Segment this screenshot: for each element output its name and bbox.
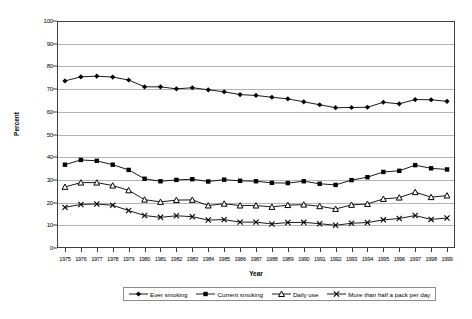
smoking-trends-line-chart: 0102030405060708090100 Percent 197519761… <box>0 0 472 319</box>
x-axis-tick-label: 1978 <box>107 256 118 262</box>
x-axis-tick-mark <box>447 248 448 252</box>
x-axis-tick-label: 1976 <box>75 256 86 262</box>
legend-label: More than half a pack per day <box>348 291 430 298</box>
x-axis-tick-label: 1985 <box>219 256 230 262</box>
gridline <box>58 203 454 204</box>
x-axis-tick-mark <box>272 248 273 252</box>
x-axis-tick-mark <box>129 248 130 252</box>
x-axis-tick-mark <box>383 248 384 252</box>
x-axis-tick-label: 1987 <box>250 256 261 262</box>
x-axis-tick-mark <box>256 248 257 252</box>
x-axis-tick-mark <box>81 248 82 252</box>
x-axis-tick-label: 1979 <box>123 256 134 262</box>
x-axis-tick-mark <box>113 248 114 252</box>
gridline <box>58 180 454 181</box>
x-axis-tick-mark <box>399 248 400 252</box>
chart-legend: Ever smokingCurrent smokingDaily useMore… <box>123 287 436 301</box>
x-axis-tick-mark <box>160 248 161 252</box>
x-axis-tick-label: 1994 <box>362 256 373 262</box>
x-axis-tick-label: 1996 <box>394 256 405 262</box>
x-axis-tick-label: 1989 <box>282 256 293 262</box>
x-axis-tick-label: 1997 <box>410 256 421 262</box>
diamond-marker-icon <box>129 290 148 298</box>
gridline <box>58 44 454 45</box>
x-axis-title: Year <box>249 270 263 277</box>
x-axis-tick-label: 1999 <box>441 256 452 262</box>
x-axis-tick-label: 1977 <box>91 256 102 262</box>
square-marker-icon <box>196 290 215 298</box>
x-axis-tick-mark <box>145 248 146 252</box>
x-axis-tick-mark <box>352 248 353 252</box>
x-axis-tick-mark <box>176 248 177 252</box>
x-axis-tick-mark <box>240 248 241 252</box>
x-axis-tick-mark <box>97 248 98 252</box>
legend-label: Ever smoking <box>150 291 187 298</box>
x-axis-tick-label: 1990 <box>298 256 309 262</box>
gridline <box>58 66 454 67</box>
x-axis-tick-label: 1991 <box>314 256 325 262</box>
y-axis: 0102030405060708090100 <box>0 0 57 249</box>
legend-item-3: More than half a pack per day <box>327 290 430 298</box>
x-axis-tick-mark <box>288 248 289 252</box>
triangle-marker-icon <box>272 290 291 298</box>
x-axis-tick-label: 1975 <box>59 256 70 262</box>
y-axis-title: Percent <box>13 112 20 136</box>
x-axis-tick-label: 1981 <box>155 256 166 262</box>
gridline <box>58 225 454 226</box>
x-axis-tick-mark <box>192 248 193 252</box>
x-axis-tick-mark <box>304 248 305 252</box>
gridline <box>58 157 454 158</box>
x-axis-tick-mark <box>320 248 321 252</box>
x-axis-tick-label: 1998 <box>425 256 436 262</box>
gridline <box>58 89 454 90</box>
x-axis-tick-label: 1993 <box>346 256 357 262</box>
x-axis-tick-label: 1980 <box>139 256 150 262</box>
x-axis-tick-mark <box>208 248 209 252</box>
x-axis-tick-mark <box>65 248 66 252</box>
x-axis-tick-label: 1982 <box>171 256 182 262</box>
x-axis-tick-label: 1995 <box>378 256 389 262</box>
legend-label: Current smoking <box>217 291 262 298</box>
legend-item-1: Current smoking <box>196 290 262 298</box>
x-axis-tick-label: 1988 <box>266 256 277 262</box>
x-axis-tick-mark <box>336 248 337 252</box>
legend-label: Daily use <box>293 291 318 298</box>
legend-item-2: Daily use <box>272 290 318 298</box>
gridline <box>58 112 454 113</box>
legend-item-0: Ever smoking <box>129 290 187 298</box>
x-axis-tick-mark <box>431 248 432 252</box>
x-axis-tick-label: 1986 <box>234 256 245 262</box>
gridline <box>58 135 454 136</box>
x-axis-tick-mark <box>367 248 368 252</box>
plot-area <box>57 21 455 248</box>
x-axis-tick-mark <box>224 248 225 252</box>
cross-marker-icon <box>327 290 346 298</box>
x-axis-tick-label: 1983 <box>187 256 198 262</box>
x-axis-tick-mark <box>415 248 416 252</box>
x-axis-tick-label: 1984 <box>203 256 214 262</box>
x-axis-tick-label: 1992 <box>330 256 341 262</box>
y-axis-tick-label: 100 <box>44 18 53 24</box>
